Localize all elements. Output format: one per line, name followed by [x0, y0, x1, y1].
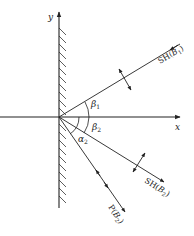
- p2-polarization-arrow-icon-2: [104, 182, 108, 188]
- free-surface-wall: [59, 28, 66, 203]
- alpha2-arc: [70, 117, 79, 134]
- incident-sh-label: SH(B1): [156, 44, 185, 67]
- beta1-label: β1: [90, 99, 100, 110]
- reflected-sh-label: SH(B2): [142, 176, 171, 199]
- reflected-p-label: P(B2): [106, 203, 126, 226]
- alpha2-label: α2: [78, 134, 88, 145]
- wave-reflection-diagram: y x β1 β2 α2 SH(B1) SH(B2) P(B2): [0, 0, 194, 236]
- x-axis-label: x: [175, 122, 180, 132]
- beta1-arc: [85, 102, 89, 117]
- p2-polarization-arrow-icon: [96, 170, 100, 176]
- reflected-sh-ray: [59, 117, 164, 182]
- beta2-arc: [84, 117, 89, 133]
- y-axis-label: y: [47, 12, 54, 22]
- beta2-label: β2: [91, 122, 101, 133]
